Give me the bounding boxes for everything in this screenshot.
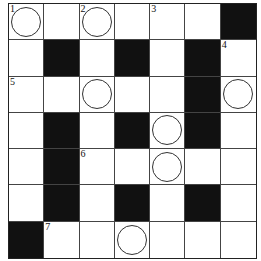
grid-cell[interactable] [9, 149, 44, 185]
grid-cell[interactable]: 4 [221, 40, 256, 76]
black-cell [221, 4, 256, 40]
grid-cell[interactable] [150, 40, 185, 76]
black-cell [185, 77, 220, 113]
grid-cell[interactable] [80, 222, 115, 258]
clue-number: 4 [222, 39, 227, 51]
grid-cell[interactable] [221, 77, 256, 113]
grid-cell[interactable] [115, 4, 150, 40]
black-cell [44, 185, 79, 221]
grid-cell[interactable] [115, 149, 150, 185]
grid-cell[interactable]: 7 [44, 222, 79, 258]
grid-cell[interactable]: 3 [150, 4, 185, 40]
grid-cell[interactable] [115, 77, 150, 113]
grid-cell[interactable] [44, 4, 79, 40]
grid-cell[interactable] [150, 77, 185, 113]
black-cell [115, 113, 150, 149]
black-cell [115, 40, 150, 76]
clue-number: 2 [81, 3, 86, 15]
grid-cell[interactable]: 6 [80, 149, 115, 185]
grid-cell[interactable]: 2 [80, 4, 115, 40]
grid-cell[interactable] [9, 40, 44, 76]
circle-marker-icon [117, 225, 147, 255]
clue-number: 5 [10, 76, 15, 88]
grid-cell[interactable] [221, 149, 256, 185]
grid-cell[interactable] [221, 113, 256, 149]
grid-cell[interactable] [185, 222, 220, 258]
clue-number: 3 [151, 3, 156, 15]
black-cell [115, 185, 150, 221]
circle-marker-icon [152, 115, 182, 145]
grid-cell[interactable] [9, 113, 44, 149]
grid-cell[interactable] [80, 77, 115, 113]
grid-cell[interactable] [150, 222, 185, 258]
grid-cell[interactable]: 5 [9, 77, 44, 113]
grid-cell[interactable] [9, 185, 44, 221]
grid-cell[interactable] [150, 149, 185, 185]
black-cell [44, 40, 79, 76]
black-cell [44, 113, 79, 149]
black-cell [185, 185, 220, 221]
circle-marker-icon [223, 79, 253, 109]
black-cell [9, 222, 44, 258]
circle-marker-icon [152, 152, 182, 182]
black-cell [44, 149, 79, 185]
grid-cell[interactable] [150, 185, 185, 221]
clue-number: 1 [10, 3, 15, 15]
grid-cell[interactable] [185, 4, 220, 40]
circle-marker-icon [82, 79, 112, 109]
grid-cell[interactable] [80, 185, 115, 221]
grid-cell[interactable] [185, 149, 220, 185]
grid-cell[interactable] [150, 113, 185, 149]
circle-marker-icon [82, 7, 112, 37]
grid-cell[interactable] [221, 185, 256, 221]
grid-cell[interactable] [80, 113, 115, 149]
crossword-grid: 1234567 [8, 3, 257, 259]
circle-marker-icon [11, 7, 41, 37]
black-cell [185, 113, 220, 149]
clue-number: 7 [45, 221, 50, 233]
grid-cell[interactable] [115, 222, 150, 258]
grid-cell[interactable] [221, 222, 256, 258]
clue-number: 6 [81, 148, 86, 160]
grid-cell[interactable]: 1 [9, 4, 44, 40]
grid-cell[interactable] [44, 77, 79, 113]
grid-cell[interactable] [80, 40, 115, 76]
black-cell [185, 40, 220, 76]
